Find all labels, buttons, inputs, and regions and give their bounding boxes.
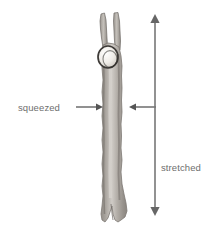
stretched-double-arrow bbox=[150, 14, 159, 216]
label-squeezed: squeezed bbox=[18, 103, 60, 113]
squeezed-arrow-left bbox=[76, 104, 103, 111]
squeezed-arrow-right bbox=[129, 104, 156, 111]
figure-canvas: squeezed stretched bbox=[0, 0, 220, 241]
label-stretched: stretched bbox=[161, 163, 201, 173]
annotation-arrows bbox=[0, 0, 220, 241]
